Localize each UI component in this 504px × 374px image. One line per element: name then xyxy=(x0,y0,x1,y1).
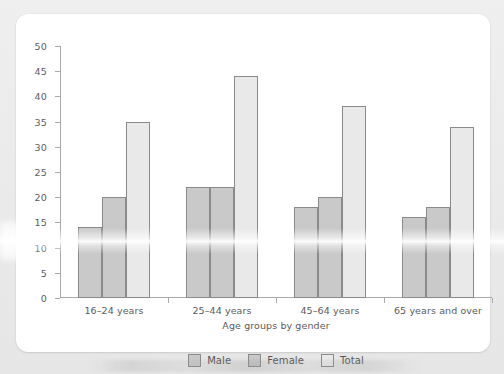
bar-female-2 xyxy=(210,187,234,298)
y-axis-tick: 5 xyxy=(55,273,60,274)
x-axis-separator-tick xyxy=(276,298,277,303)
x-axis-separator-tick xyxy=(168,298,169,303)
y-axis-tick-label: 50 xyxy=(35,41,48,52)
y-axis-tick-label: 20 xyxy=(35,192,48,203)
x-axis-title: Age groups by gender xyxy=(60,320,492,331)
y-axis-tick-label: 5 xyxy=(41,267,47,278)
y-axis-tick: 10 xyxy=(55,248,60,249)
bar-male-4 xyxy=(402,217,426,298)
bar-total-3 xyxy=(342,106,366,298)
x-axis-group-label: 45–64 years xyxy=(300,305,359,316)
y-axis-tick: 30 xyxy=(55,147,60,148)
legend-label-male: Male xyxy=(207,355,231,366)
y-axis-tick: 25 xyxy=(55,172,60,173)
legend-swatch-female xyxy=(248,354,261,367)
y-axis-tick-label: 0 xyxy=(41,293,47,304)
y-axis-tick: 45 xyxy=(55,71,60,72)
legend-label-total: Total xyxy=(340,355,364,366)
figure-page: 05101520253035404550 16–24 years25–44 ye… xyxy=(0,0,504,374)
y-axis-tick: 15 xyxy=(55,222,60,223)
x-axis-separator-tick xyxy=(384,298,385,303)
bar-female-1 xyxy=(102,197,126,298)
y-axis-tick: 20 xyxy=(55,197,60,198)
chart-card: 05101520253035404550 16–24 years25–44 ye… xyxy=(16,14,490,352)
legend-swatch-male xyxy=(188,354,201,367)
y-axis-tick: 0 xyxy=(55,298,60,299)
y-axis-tick-label: 10 xyxy=(35,242,48,253)
chart-legend: MaleFemaleTotal xyxy=(60,354,492,367)
bar-male-3 xyxy=(294,207,318,298)
x-axis-group-label: 65 years and over xyxy=(394,305,482,316)
legend-swatch-total xyxy=(321,354,334,367)
y-axis-tick: 40 xyxy=(55,96,60,97)
y-axis-tick-label: 45 xyxy=(35,66,48,77)
y-axis-tick-label: 30 xyxy=(35,141,48,152)
y-axis-line xyxy=(60,46,61,298)
bar-male-1 xyxy=(78,227,102,298)
y-axis-tick-label: 40 xyxy=(35,91,48,102)
legend-item-total[interactable]: Total xyxy=(321,354,364,367)
bar-female-4 xyxy=(426,207,450,298)
legend-item-male[interactable]: Male xyxy=(188,354,231,367)
y-axis-tick: 35 xyxy=(55,122,60,123)
x-axis-group-label: 25–44 years xyxy=(192,305,251,316)
y-axis-tick-label: 35 xyxy=(35,116,48,127)
bar-total-4 xyxy=(450,127,474,298)
y-axis-tick: 50 xyxy=(55,46,60,47)
x-axis-end-tick xyxy=(492,298,493,303)
legend-item-female[interactable]: Female xyxy=(248,354,304,367)
bar-female-3 xyxy=(318,197,342,298)
bar-total-2 xyxy=(234,76,258,298)
bar-total-1 xyxy=(126,122,150,298)
y-axis-tick-label: 15 xyxy=(35,217,48,228)
legend-label-female: Female xyxy=(267,355,304,366)
bar-male-2 xyxy=(186,187,210,298)
y-axis-tick-label: 25 xyxy=(35,167,48,178)
x-axis-group-label: 16–24 years xyxy=(84,305,143,316)
plot-area: 05101520253035404550 16–24 years25–44 ye… xyxy=(60,46,492,298)
